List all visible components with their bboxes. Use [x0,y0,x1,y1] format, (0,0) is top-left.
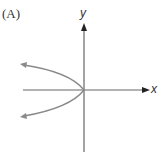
lower-arrow-icon [20,113,27,119]
y-axis-arrow-icon [81,23,87,31]
x-axis-arrow-icon [142,87,150,93]
upper-arrow-icon [20,62,27,68]
graph-canvas [0,0,168,153]
x-axis [23,87,150,93]
